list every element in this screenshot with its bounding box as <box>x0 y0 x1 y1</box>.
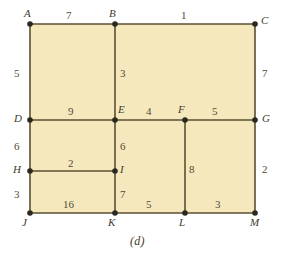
vertex-E <box>112 117 118 123</box>
vertex-I <box>112 168 118 174</box>
region-fill-main <box>30 24 255 213</box>
figure-container: A B C D E F G H I J K L M 7 1 5 3 7 9 4 … <box>0 0 284 260</box>
figure-caption: (d) <box>130 234 145 249</box>
vertex-L <box>182 210 188 216</box>
vertex-M <box>252 210 258 216</box>
vertex-G <box>252 117 258 123</box>
vertex-K <box>112 210 118 216</box>
vertex-A <box>27 21 33 27</box>
vertex-D <box>27 117 33 123</box>
vertex-J <box>27 210 33 216</box>
graph-canvas <box>0 0 284 260</box>
vertex-H <box>27 168 33 174</box>
vertex-C <box>252 21 258 27</box>
vertex-F <box>182 117 188 123</box>
region-fill-group <box>30 24 255 213</box>
vertex-B <box>112 21 118 27</box>
